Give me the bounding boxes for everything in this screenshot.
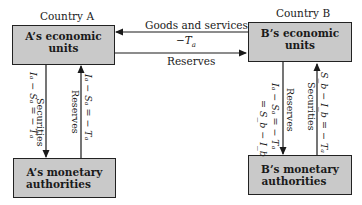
b-securities-eq: S_b − I_b = − Tₐ	[319, 72, 330, 153]
b-reserves-eq1: Iₐ − Sₐ = − Tₐ	[270, 83, 281, 149]
b-monetary-authorities-box: B’s monetary authorities	[248, 155, 352, 195]
a-reserves-label: Reserves	[70, 90, 81, 134]
b-monetary-line1: B’s monetary	[261, 163, 339, 175]
goods-value-label: −Ta	[176, 34, 196, 49]
b-reserves-eq2: = S_b − I_b	[258, 100, 269, 157]
a-economic-units-label: A’s economic units	[13, 30, 114, 54]
b-securities-label: Securities	[306, 82, 317, 131]
a-monetary-line1: A’s monetary	[27, 166, 103, 178]
reserves-flow-label: Reserves	[167, 55, 215, 67]
b-reserves-label: Reserves	[285, 88, 296, 132]
country-b-title: Country B	[276, 7, 330, 19]
a-monetary-line2: authorities	[26, 178, 91, 190]
b-economic-units-label: B’s economic units	[249, 27, 351, 51]
a-economic-units-box: A’s economic units	[12, 25, 115, 65]
a-securities-eq: Iₐ − Sₐ = − Tₐ	[28, 72, 39, 138]
country-a-title: Country A	[40, 10, 94, 22]
goods-services-label: Goods and services	[145, 19, 248, 31]
a-monetary-authorities-box: A’s monetary authorities	[13, 158, 116, 198]
b-monetary-line2: authorities	[262, 175, 327, 187]
b-economic-units-box: B’s economic units	[248, 22, 352, 62]
a-reserves-eq: Iₐ − Sₐ = − Tₐ	[83, 74, 94, 140]
